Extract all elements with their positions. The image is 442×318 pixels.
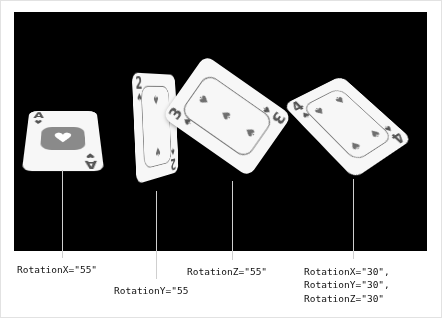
card-scene-1: A ♥ ♥ A ♥ [26,86,100,190]
rotation-label-z: RotationZ="55" [187,265,267,278]
card-corner-bottom-right: A ♥ [84,152,98,168]
leader-line-2 [156,191,157,279]
ace-center-emblem: ♥ [40,127,86,150]
spade-icon: ♠ [171,146,175,158]
leader-line-1 [62,170,63,258]
playing-card: 2 ♠ ♠ ♠ 2 ♠ [132,72,179,184]
card-stage: A ♥ ♥ A ♥ 2 [14,12,427,251]
playing-card: 4 ♠ ♠ ♠ ♠ ♠ 4 ♠ [283,76,412,179]
card-corner-top-left: A ♥ [32,113,44,125]
card-rank: 2 [170,156,176,170]
playing-card: A ♥ ♥ A ♥ [22,111,104,171]
card-corner-top-left: 2 ♠ [135,77,143,104]
card-four-spades[interactable]: 4 ♠ ♠ ♠ ♠ ♠ 4 ♠ [310,70,384,174]
page-root: A ♥ ♥ A ♥ 2 [0,0,442,318]
card-rank: A [85,159,98,168]
card-pip-outline [141,86,172,170]
card-pip-outline [301,87,393,162]
card-rank: 4 [388,130,406,144]
card-ace-hearts[interactable]: A ♥ ♥ A ♥ [26,86,100,190]
rotation-label-y: RotationY="55 [114,284,188,297]
rotation-label-xyz: RotationX="30", RotationY="30", Rotation… [304,265,390,305]
card-three-spades[interactable]: 3 ♠ ♠ ♠ ♠ 3 ♠ [190,64,264,168]
leader-line-4 [353,179,354,259]
heart-icon: ♥ [34,119,41,125]
card-scene-4: 4 ♠ ♠ ♠ ♠ ♠ 4 ♠ [310,70,384,174]
leader-line-3 [232,181,233,260]
spade-icon: ♠ [137,91,142,104]
rotation-label-x: RotationX="55" [17,263,97,276]
card-scene-3: 3 ♠ ♠ ♠ ♠ 3 ♠ [190,64,264,168]
heart-icon: ♥ [54,130,71,146]
card-corner-bottom-right: 2 ♠ [170,146,176,171]
heart-icon: ♥ [87,152,95,160]
